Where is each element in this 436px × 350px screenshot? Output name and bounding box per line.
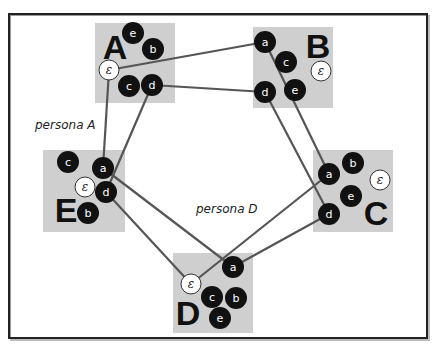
node-label: b: [150, 43, 157, 56]
node-label: e: [292, 84, 299, 97]
node-label: ε: [377, 173, 383, 187]
node-label: b: [350, 157, 357, 170]
node-label: c: [283, 56, 289, 69]
node-label: d: [326, 208, 333, 221]
group-label-b: B: [306, 27, 331, 65]
node-label: c: [209, 291, 215, 304]
persona-network-diagram: AebεcdBacεdeCbaεedDaεcbeEcaεdb persona A…: [0, 0, 436, 350]
node-label: ε: [106, 63, 112, 77]
link-line: [106, 192, 191, 284]
node-label: d: [103, 186, 110, 199]
node-label: a: [230, 261, 237, 274]
group-boxes: [43, 23, 393, 333]
node-label: ε: [318, 64, 324, 78]
node-label: c: [65, 156, 71, 169]
node-label: d: [149, 79, 156, 92]
node-label: ε: [82, 180, 88, 194]
node-label: ε: [188, 277, 194, 291]
node-label: e: [348, 190, 355, 203]
group-label-e: E: [55, 191, 78, 229]
node-label: d: [262, 86, 269, 99]
link-line: [233, 214, 329, 267]
link-line: [191, 174, 329, 284]
node-label: a: [326, 168, 333, 181]
persona-d-label: persona D: [195, 202, 258, 216]
group-label-c: C: [364, 194, 389, 232]
node-label: e: [217, 312, 224, 325]
node-label: a: [100, 162, 107, 175]
node-label: b: [85, 207, 92, 220]
persona-a-label: persona A: [34, 118, 96, 132]
node-label: e: [130, 27, 137, 40]
node-label: a: [262, 36, 269, 49]
node-label: c: [126, 80, 132, 93]
node-label: b: [233, 292, 240, 305]
group-label-d: D: [176, 294, 201, 332]
